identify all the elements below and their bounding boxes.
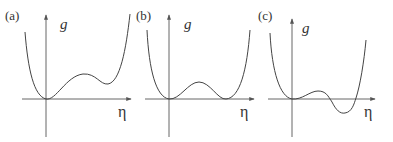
panel-b-x-axis-label: η [240,104,248,120]
free-energy-figure: (a) g η (b) g η (c) g η [0,0,393,142]
panel-a-y-axis-label: g [60,17,68,32]
panel-c-y-axis-label: g [302,21,310,36]
panel-b-y-axis-label: g [184,17,192,32]
panel-b-label: (b) [136,9,151,22]
panel-c-plot [268,19,375,137]
panel-c-label: (c) [258,9,272,22]
figure-plot-area [0,0,393,142]
panel-b-plot [145,15,254,137]
panel-a-x-axis-label: η [118,104,126,120]
panel-a-plot [22,14,131,137]
panel-a-curve [25,14,130,99]
panel-a-label: (a) [5,9,19,22]
panel-b-curve [147,30,250,99]
panel-c-curve [270,33,366,113]
panel-c-x-axis-label: η [364,104,372,120]
